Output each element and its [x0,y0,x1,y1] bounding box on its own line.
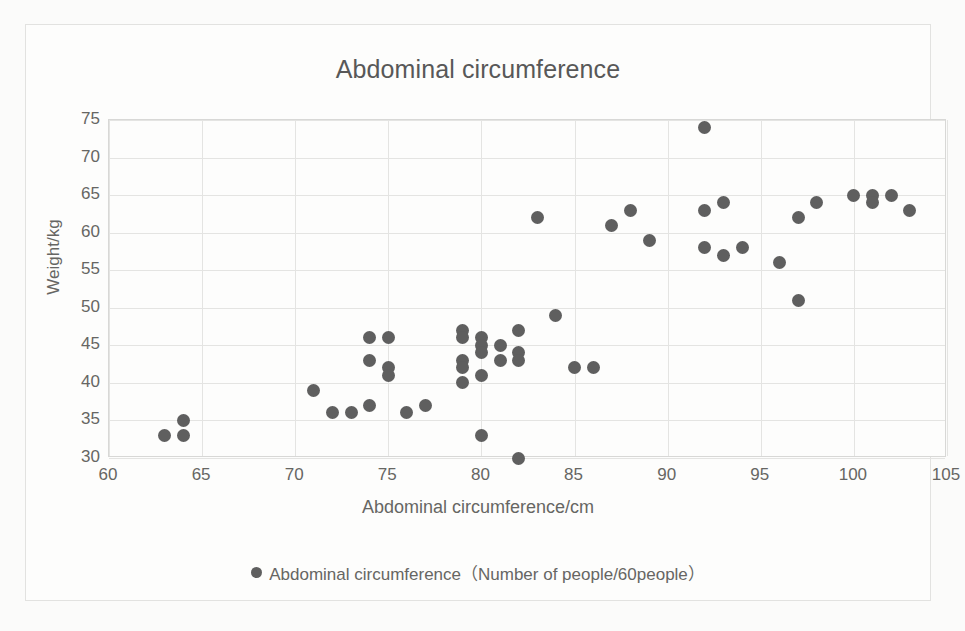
gridline-horizontal [109,420,945,421]
gridline-vertical [947,120,948,456]
gridline-horizontal [109,233,945,234]
scatter-point [326,406,339,419]
scatter-point [792,294,805,307]
scatter-point [605,219,618,232]
scatter-point [847,189,860,202]
gridline-vertical [295,120,296,456]
scatter-point [456,376,469,389]
x-tick-label: 100 [823,465,883,485]
gridline-horizontal [109,120,945,121]
x-tick-label: 85 [544,465,604,485]
x-tick-label: 105 [916,465,965,485]
scatter-point [363,399,376,412]
scatter-point [307,384,320,397]
legend-label: Abdominal circumference（Number of people… [269,560,705,585]
gridline-vertical [854,120,855,456]
scatter-point [382,369,395,382]
y-tick-label: 50 [60,297,100,317]
scatter-point [885,189,898,202]
scatter-point [568,361,581,374]
chart-title: Abdominal circumference [26,55,930,84]
gridline-horizontal [109,458,945,459]
scatter-point [494,339,507,352]
y-tick-label: 45 [60,334,100,354]
scatter-point [717,249,730,262]
scatter-point [531,211,544,224]
scatter-point [475,346,488,359]
x-tick-label: 60 [78,465,138,485]
scatter-point [549,309,562,322]
x-tick-label: 90 [637,465,697,485]
scatter-point [866,196,879,209]
y-tick-label: 75 [60,109,100,129]
scatter-point [512,324,525,337]
scatter-point [810,196,823,209]
scatter-point [698,204,711,217]
gridline-vertical [388,120,389,456]
scatter-point [773,256,786,269]
x-tick-label: 95 [730,465,790,485]
x-tick-label: 65 [171,465,231,485]
scatter-point [624,204,637,217]
scatter-point [512,452,525,465]
y-axis-tick-labels: 30354045505560657075 [48,119,100,457]
scatter-point [736,241,749,254]
gridline-horizontal [109,158,945,159]
scatter-point [363,354,376,367]
scatter-point [698,241,711,254]
scatter-point [475,369,488,382]
y-tick-label: 70 [60,147,100,167]
scatter-point [456,331,469,344]
y-tick-label: 65 [60,184,100,204]
scatter-point [456,361,469,374]
scatter-point [512,354,525,367]
scatter-point [587,361,600,374]
gridline-vertical [575,120,576,456]
scatter-point [345,406,358,419]
scatter-point [177,414,190,427]
y-tick-label: 60 [60,222,100,242]
scatter-point [717,196,730,209]
gridline-horizontal [109,270,945,271]
scatter-point [158,429,171,442]
scatter-point [382,331,395,344]
y-tick-label: 35 [60,409,100,429]
y-tick-label: 30 [60,447,100,467]
scatter-point [475,429,488,442]
y-tick-label: 40 [60,372,100,392]
x-axis-title: Abdominal circumference/cm [26,497,930,518]
x-tick-label: 75 [357,465,417,485]
y-tick-label: 55 [60,259,100,279]
gridline-horizontal [109,383,945,384]
scatter-point [177,429,190,442]
scatter-point [363,331,376,344]
gridline-vertical [668,120,669,456]
legend-marker-icon [251,567,262,578]
gridline-vertical [481,120,482,456]
scatter-point [494,354,507,367]
plot-area [108,119,946,457]
scatter-point [643,234,656,247]
chart-legend: Abdominal circumference（Number of people… [26,560,930,585]
scatter-point [792,211,805,224]
gridline-vertical [109,120,110,456]
gridline-horizontal [109,345,945,346]
gridline-vertical [761,120,762,456]
gridline-vertical [202,120,203,456]
x-tick-label: 70 [264,465,324,485]
x-axis-tick-labels: 6065707580859095100105 [108,465,946,491]
scatter-point [698,121,711,134]
scatter-point [903,204,916,217]
scatter-point [419,399,432,412]
x-tick-label: 80 [450,465,510,485]
gridline-horizontal [109,308,945,309]
chart-card: Abdominal circumference Weight/kg 303540… [25,24,931,601]
scatter-point [400,406,413,419]
